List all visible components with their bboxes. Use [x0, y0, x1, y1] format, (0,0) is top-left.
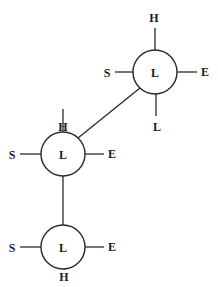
diagram-canvas: L H S E L L H S E L S E H	[0, 0, 218, 287]
node-top-right: L H S E L	[104, 11, 209, 134]
spoke-label-right: E	[108, 240, 116, 254]
spoke-label-up: H	[149, 11, 159, 25]
node-label: L	[151, 66, 159, 80]
node-bottom: L S E H	[9, 225, 116, 284]
spoke-label-right: E	[201, 65, 209, 79]
node-label: L	[59, 148, 67, 162]
node-middle: L H S E	[9, 109, 116, 176]
spoke-label-right: E	[108, 147, 116, 161]
spoke-label-down: L	[153, 120, 161, 134]
spoke-label-left: S	[9, 241, 16, 255]
spoke-label-left: S	[9, 148, 16, 162]
spoke-label-left: S	[104, 66, 111, 80]
edge-top-right-to-middle	[78, 88, 140, 138]
spoke-label-up: H	[58, 120, 68, 134]
node-label: L	[59, 241, 67, 255]
spoke-label-down: H	[59, 270, 69, 284]
